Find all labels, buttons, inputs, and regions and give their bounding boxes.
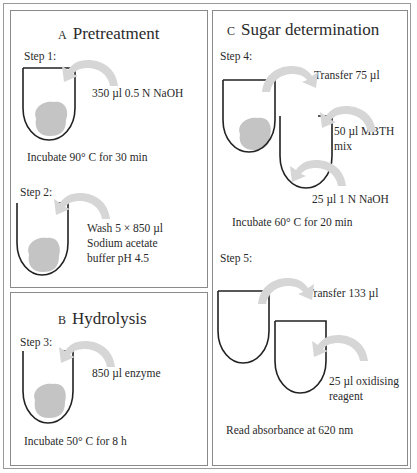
panel-a-letter: A: [58, 28, 67, 42]
step-4-reagent-2: 25 µl 1 N NaOH: [312, 192, 389, 207]
step-4-label: Step 4:: [220, 49, 252, 64]
step-4-condition: Incubate 60° C for 20 min: [232, 215, 353, 230]
step-3-reagent: 850 µl enzyme: [92, 366, 161, 381]
step-2-label: Step 2:: [20, 185, 52, 200]
step-1-label: Step 1:: [24, 49, 56, 64]
panel-a-title: APretreatment: [58, 24, 160, 44]
step-1-condition: Incubate 90° C for 30 min: [27, 150, 148, 165]
step-4-transfer: Transfer 75 µl: [314, 68, 380, 83]
step-3-label: Step 3:: [20, 335, 52, 350]
step-5-transfer: Transfer 133 µl: [307, 286, 378, 301]
step-1-reagent: 350 µl 0.5 N NaOH: [92, 86, 183, 101]
step-2-reagent-line-1: Wash 5 × 850 µl: [87, 221, 163, 236]
step-4-reagent-line-1: 50 µl MBTH: [334, 124, 394, 139]
step-5-label: Step 5:: [220, 251, 252, 266]
panel-c-letter: C: [227, 24, 235, 38]
step-5-condition: Read absorbance at 620 nm: [226, 423, 353, 438]
step-2-reagent-line-3: buffer pH 4.5: [87, 251, 149, 266]
panel-b-letter: B: [58, 313, 66, 327]
panel-c-title: CSugar determination: [227, 20, 379, 40]
step-5-reagent-line-1: 25 µl oxidising: [329, 374, 399, 389]
panel-b-title: BHydrolysis: [58, 309, 147, 329]
step-4-reagent-line-2: mix: [334, 139, 352, 154]
step-2-reagent-line-2: Sodium acetate: [87, 236, 158, 251]
step-5-reagent-line-2: reagent: [329, 389, 363, 404]
step-3-condition: Incubate 50° C for 8 h: [24, 434, 127, 449]
